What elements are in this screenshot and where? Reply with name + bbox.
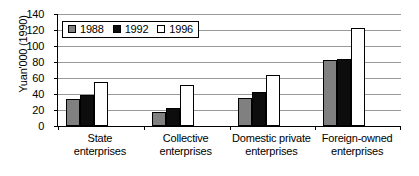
x-axis-category-label: Domestic privateenterprises xyxy=(229,132,315,158)
bar xyxy=(66,99,80,126)
y-axis-tick-label: 80 xyxy=(14,57,44,68)
bar-group xyxy=(230,14,316,126)
y-axis-tick-label: 100 xyxy=(14,41,44,52)
x-axis-category-label-line: enterprises xyxy=(314,145,400,158)
x-axis-category-label: Foreign-ownedenterprises xyxy=(314,132,400,158)
legend-label: 1988 xyxy=(80,23,104,35)
legend-swatch-icon xyxy=(113,25,121,33)
x-axis-category-labels: StateenterprisesCollectiveenterprisesDom… xyxy=(57,132,400,158)
x-axis-tick-mark xyxy=(144,126,145,130)
legend-item: 1988 xyxy=(68,23,104,35)
x-axis-tick-mark xyxy=(400,126,401,130)
x-axis-category-label-line: enterprises xyxy=(57,145,143,158)
legend-label: 1996 xyxy=(169,23,193,35)
x-axis-category-label-line: Domestic private xyxy=(229,132,315,145)
legend-item: 1996 xyxy=(157,23,193,35)
bar xyxy=(351,28,365,126)
bar-group xyxy=(315,14,401,126)
bar-chart: Yuan'000 (1990) 140120100806040200 19881… xyxy=(0,0,419,176)
y-axis-tick-label: 0 xyxy=(14,121,44,132)
y-axis-tick-label: 40 xyxy=(14,89,44,100)
bar xyxy=(152,112,166,126)
y-axis-tick-label: 140 xyxy=(14,9,44,20)
x-axis-category-label-line: Collective xyxy=(143,132,229,145)
x-axis-tick-mark xyxy=(58,126,59,130)
y-axis-tick-label: 120 xyxy=(14,25,44,36)
legend-label: 1992 xyxy=(125,23,149,35)
bar xyxy=(80,95,94,126)
bar xyxy=(252,92,266,126)
x-axis-category-label-line: State xyxy=(57,132,143,145)
legend: 198819921996 xyxy=(62,21,199,38)
x-axis-category-label-line: enterprises xyxy=(229,145,315,158)
x-axis-category-label: Collectiveenterprises xyxy=(143,132,229,158)
legend-swatch-icon xyxy=(157,25,165,33)
bar xyxy=(94,82,108,126)
bar xyxy=(323,60,337,126)
bar xyxy=(180,85,194,126)
legend-item: 1992 xyxy=(113,23,149,35)
legend-swatch-icon xyxy=(68,25,76,33)
y-axis-tick-label: 20 xyxy=(14,105,44,116)
bar xyxy=(266,75,280,126)
x-axis-category-label: Stateenterprises xyxy=(57,132,143,158)
bar xyxy=(337,59,351,126)
y-axis-tick-labels: 140120100806040200 xyxy=(14,14,44,126)
y-axis-tick-label: 60 xyxy=(14,73,44,84)
x-axis-tick-mark xyxy=(230,126,231,130)
x-axis-category-label-line: enterprises xyxy=(143,145,229,158)
x-axis-category-label-line: Foreign-owned xyxy=(314,132,400,145)
bar xyxy=(238,98,252,126)
x-axis-tick-mark xyxy=(315,126,316,130)
bar xyxy=(166,108,180,126)
